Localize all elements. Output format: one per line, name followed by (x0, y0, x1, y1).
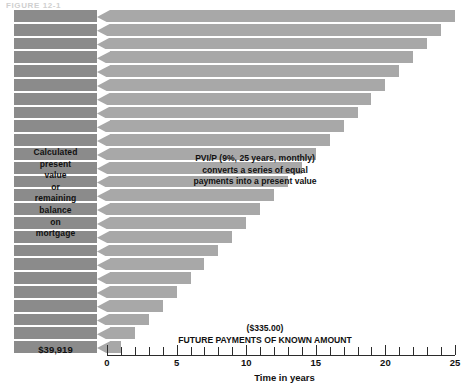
axis-tick-minor (274, 347, 275, 355)
x-axis-title: Time in years (0, 372, 469, 383)
axis-tick-minor (218, 347, 219, 355)
axis-tick-major (316, 345, 317, 355)
axis-tick-minor (163, 347, 164, 355)
axis-tick-label: 0 (104, 357, 109, 368)
axis-tick-minor (441, 347, 442, 355)
axis-tick-minor (288, 347, 289, 355)
axis-tick-minor (413, 347, 414, 355)
axis-tick-minor (260, 347, 261, 355)
axis-tick-major (385, 345, 386, 355)
axis-tick-minor (344, 347, 345, 355)
axis-tick-major (455, 345, 456, 355)
axis-tick-minor (204, 347, 205, 355)
axis-tick-minor (149, 347, 150, 355)
future-note-line-1: FUTURE PAYMENTS OF KNOWN AMOUNT (150, 334, 380, 346)
future-payments-annotation: ($335.00)FUTURE PAYMENTS OF KNOWN AMOUNT (150, 322, 380, 346)
axis-tick-minor (121, 347, 122, 355)
axis-tick-minor (330, 347, 331, 355)
axis-tick-label: 10 (241, 357, 252, 368)
pvi-note-line-0: PVI/P (9%, 25 years, monthly) (150, 153, 360, 165)
axis-tick-minor (135, 347, 136, 355)
pvi-note-line-2: payments into a present value (150, 176, 360, 188)
axis-tick-major (177, 345, 178, 355)
present-value-total: $39,919 (14, 343, 97, 357)
axis-tick-label: 5 (174, 357, 179, 368)
axis-tick-label: 25 (450, 357, 461, 368)
axis-tick-minor (399, 347, 400, 355)
axis-tick-major (246, 345, 247, 355)
axis-tick-minor (191, 347, 192, 355)
axis-tick-label: 15 (311, 357, 322, 368)
future-note-line-0: ($335.00) (150, 322, 380, 334)
pvi-formula-annotation: PVI/P (9%, 25 years, monthly)converts a … (150, 153, 360, 188)
axis-tick-major (107, 345, 108, 355)
axis-tick-minor (302, 347, 303, 355)
axis-tick-minor (371, 347, 372, 355)
axis-line (107, 355, 455, 356)
chart-plot-area: Calculatedpresentvalueorremainingbalance… (0, 10, 469, 355)
axis-tick-label: 20 (380, 357, 391, 368)
axis-tick-minor (358, 347, 359, 355)
axis-tick-minor (232, 347, 233, 355)
pvi-note-line-1: converts a series of equal (150, 165, 360, 177)
axis-tick-minor (427, 347, 428, 355)
